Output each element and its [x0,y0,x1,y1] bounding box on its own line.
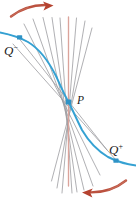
figure-canvas [0,0,136,201]
rotation-arrow-top-tail [11,5,45,17]
label-q-plus-letter: Q [109,142,118,157]
label-q-plus-superscript: + [118,142,123,151]
label-q-minus-superscript: − [13,43,18,52]
label-q-minus-letter: Q [4,43,13,58]
label-point-p: P [77,95,84,107]
label-point-q-plus: Q+ [109,143,123,156]
point-marker-q-minus [17,35,22,39]
point-marker-q-plus [113,158,118,162]
label-point-q-minus: Q− [4,44,18,57]
secant-lines-figure: Q− Q+ P [0,0,136,201]
point-marker-p [66,100,71,105]
secant-line-group [13,18,116,194]
